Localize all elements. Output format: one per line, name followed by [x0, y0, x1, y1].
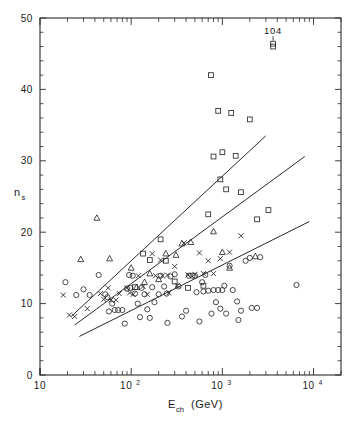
plot-canvas: 0102030405010102103104Ech(GeV)ns104: [0, 0, 359, 428]
x-tick-label: 10: [211, 380, 223, 391]
annotation-label: 104: [264, 25, 282, 36]
x-axis-title-unit: (GeV): [191, 398, 223, 410]
y-tick-label: 30: [21, 155, 33, 166]
scatter-plot-figure: 0102030405010102103104Ech(GeV)ns104: [0, 0, 359, 428]
x-tick-label: 10: [34, 380, 46, 391]
y-axis-title-subscript: s: [22, 193, 26, 202]
x-tick-label: 10: [302, 380, 314, 391]
x-axis-title: E: [168, 398, 176, 410]
y-tick-label: 10: [21, 298, 33, 309]
x-tick-label-exponent: 2: [136, 379, 140, 386]
y-tick-label: 50: [21, 13, 33, 24]
x-tick-label: 10: [120, 380, 132, 391]
x-axis-title-subscript: ch: [176, 405, 184, 414]
y-axis-title: n: [14, 186, 21, 198]
y-tick-label: 40: [21, 84, 33, 95]
plot-background: [0, 0, 359, 428]
x-tick-label-exponent: 4: [319, 379, 323, 386]
x-tick-label-exponent: 3: [228, 379, 232, 386]
y-tick-label: 0: [27, 370, 33, 381]
y-tick-label: 20: [21, 227, 33, 238]
